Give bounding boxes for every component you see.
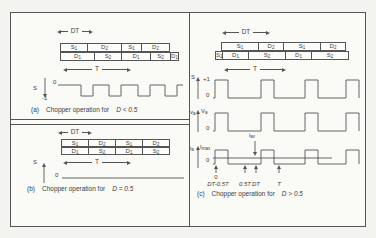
panel-a: DT S1D2S1D2D1S2D1S2D1 T S 0 -1 (a) Chopp… — [11, 13, 189, 119]
level-zero-va: 0 — [206, 125, 209, 131]
level-plus-one: +1 — [203, 76, 210, 82]
pulse-waveform — [213, 150, 359, 164]
level-zero: 0 — [55, 172, 58, 178]
axis-label-s: S — [191, 74, 195, 80]
level-zero-s: 0 — [206, 92, 209, 98]
arrowhead-icon — [214, 165, 218, 169]
arrowhead-icon — [243, 165, 247, 169]
caption-tag: (a) — [31, 106, 39, 113]
arrowhead-icon — [196, 77, 200, 81]
level-imax: Imax — [200, 144, 210, 152]
arrowhead-icon — [196, 110, 200, 114]
waveform-canvas-b — [11, 125, 189, 226]
arrowhead-icon — [277, 165, 281, 169]
annotation-iav: iav — [249, 132, 255, 140]
caption-text: Chopper operation for — [46, 106, 109, 113]
level-zero: 0 — [53, 79, 56, 85]
caption-condition: D > 0.5 — [282, 190, 303, 197]
axis-label-s: S — [33, 159, 37, 165]
panel-c: DT S1D2S1D2S2D1S2D1S2 T S +1 0 va Va 0 i… — [189, 13, 365, 226]
arrowhead-icon — [42, 163, 46, 167]
caption-tag: (b) — [27, 185, 35, 192]
divider-horizontal-top — [11, 119, 189, 120]
time-label-zero: 0 — [212, 174, 220, 180]
caption-condition: D = 0.5 — [112, 185, 133, 192]
pulse-waveform — [58, 85, 183, 96]
figure-frame: DT S1D2S1D2D1S2D1S2D1 T S 0 -1 (a) Chopp… — [10, 12, 366, 227]
caption-condition: D < 0.5 — [116, 106, 137, 113]
axis-label-ia: ia — [190, 145, 194, 153]
caption-c: (c) Chopper operation for D > 0.5 — [197, 190, 303, 197]
time-label-t: T — [273, 181, 285, 187]
caption-tag: (c) — [197, 190, 205, 197]
caption-a: (a) Chopper operation for D < 0.5 — [31, 106, 137, 113]
arrowhead-icon — [254, 165, 258, 169]
time-label-dt: DT — [249, 181, 263, 187]
caption-text: Chopper operation for — [212, 190, 275, 197]
pulse-waveform — [213, 113, 359, 131]
caption-text: Chopper operation for — [42, 185, 105, 192]
figure-chopper-operation: DT S1D2S1D2D1S2D1S2D1 T S 0 -1 (a) Chopp… — [0, 0, 376, 238]
level-va: Va — [201, 108, 208, 116]
axis-label-va: va — [190, 109, 196, 117]
waveform-canvas-a — [11, 13, 189, 119]
level-minus-one: -1 — [42, 95, 47, 101]
time-label-dt-minus-half-t: DT-0.5T — [196, 181, 240, 187]
arrowhead-icon — [253, 152, 257, 156]
pulse-waveform — [213, 80, 359, 98]
axis-label-s: S — [33, 85, 37, 91]
level-zero-ia: 0 — [206, 157, 209, 163]
caption-b: (b) Chopper operation for D = 0.5 — [27, 185, 133, 192]
panel-b: DT S1D2S1D2D1S2D1S2 T S 0 (b) Chopper op… — [11, 125, 189, 226]
